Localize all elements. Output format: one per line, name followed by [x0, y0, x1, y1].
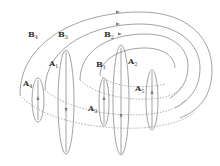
- label-a1: A1: [49, 59, 58, 69]
- loop-b1: [100, 48, 175, 75]
- label-b4: B4: [28, 30, 38, 40]
- label-a4: A4: [23, 79, 32, 89]
- field-lines-graphic: [0, 0, 220, 166]
- label-a5: A5: [135, 84, 144, 94]
- label-a3: A3: [88, 104, 97, 114]
- label-b3: B3: [58, 30, 68, 40]
- label-b1: B1: [96, 60, 106, 70]
- label-b2: B2: [104, 30, 114, 40]
- diagram: B4 B3 B2 B1 A1 A2 A3 A4 A5: [0, 0, 220, 166]
- label-a2: A2: [128, 57, 137, 67]
